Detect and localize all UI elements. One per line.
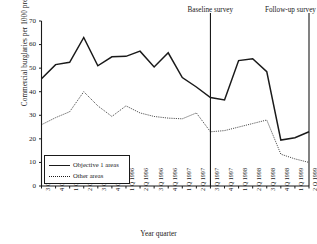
legend: Objective 1 areas Other areas — [44, 155, 130, 184]
legend-label: Other areas — [73, 172, 103, 179]
legend-label: Objective 1 areas — [73, 161, 119, 168]
chart-figure: Commercial burglaries per 1000 premises … — [0, 0, 317, 244]
chart-canvas — [0, 0, 317, 244]
series-line-other-areas — [42, 92, 310, 163]
legend-line-solid-icon — [49, 165, 70, 166]
legend-line-dotted-icon — [49, 176, 70, 177]
